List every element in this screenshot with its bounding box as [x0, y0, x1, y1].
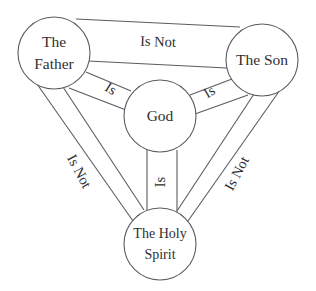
- link-label-god-holy-spirit: Is: [152, 176, 168, 187]
- node-label-son: The Son: [236, 51, 288, 68]
- link-label-father-god: Is: [102, 79, 120, 98]
- link-father-son-edge-b: [88, 61, 227, 68]
- node-label-god-line1: God: [147, 107, 174, 124]
- node-label-holy-spirit-line1: The Holy: [133, 226, 186, 241]
- link-label-father-holy-spirit: Is Not: [64, 152, 95, 191]
- node-label-father-line1: The: [42, 33, 66, 50]
- node-label-god: God: [147, 107, 174, 124]
- shield-of-the-trinity-svg: The Father The Son God The Holy Spirit I…: [0, 0, 316, 291]
- node-circle-father[interactable]: [18, 17, 90, 89]
- link-son-god-edge-b: [195, 95, 248, 114]
- node-circle-holy-spirit[interactable]: [124, 208, 196, 280]
- trinity-diagram: The Father The Son God The Holy Spirit I…: [0, 0, 316, 291]
- link-label-father-son: Is Not: [140, 33, 176, 50]
- node-label-son-line1: The Son: [236, 51, 288, 68]
- link-label-son-holy-spirit: Is Not: [221, 154, 252, 193]
- link-son-holy-spirit-edge-a: [188, 90, 280, 221]
- link-father-holy-spirit-edge-a: [37, 84, 133, 221]
- node-label-holy-spirit-line2: Spirit: [144, 247, 175, 262]
- link-father-god-edge-b: [69, 88, 126, 110]
- link-father-son-edge-a: [76, 19, 240, 27]
- node-label-father-line2: Father: [34, 55, 74, 72]
